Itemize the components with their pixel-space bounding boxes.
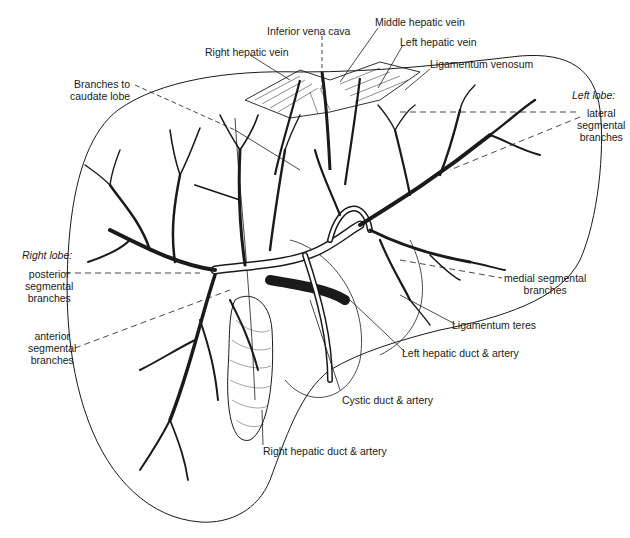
label-right-posterior-segmental-branches: posterior segmental branches [25,268,73,304]
label-line: branches [28,354,76,366]
label-left-hepatic-vein: Left hepatic vein [400,36,476,48]
leader-lines [65,28,580,445]
label-right-hepatic-duct-artery: Right hepatic duct & artery [263,445,387,457]
label-cystic-duct-artery: Cystic duct & artery [342,394,433,406]
label-line: segmental [25,280,73,292]
label-line: branches [25,292,73,304]
label-line: branches [504,284,586,296]
label-line: segmental [577,119,625,131]
label-right-lobe-heading: Right lobe: [22,249,72,261]
portal-trunk [215,209,370,380]
quadrate-lobe-line [380,240,422,355]
hepatic-veins [245,62,420,185]
label-line: posterior [25,268,73,280]
label-left-lateral-segmental-branches: lateral segmental branches [577,107,625,143]
label-medial-segmental-branches: medial segmental branches [504,272,586,296]
label-left-hepatic-duct-artery: Left hepatic duct & artery [402,347,519,359]
label-right-anterior-segmental-branches: anterior segmental branches [28,330,76,366]
label-line: caudate lobe [70,90,130,102]
label-line: Branches to [70,78,130,90]
label-ligamentum-venosum: Ligamentum venosum [430,58,533,70]
label-line: lateral [577,107,625,119]
label-inferior-vena-cava: Inferior vena cava [267,25,350,37]
label-line: medial segmental [504,272,586,284]
label-line: segmental [28,342,76,354]
label-line: anterior [28,330,76,342]
label-line: branches [577,131,625,143]
label-right-hepatic-vein: Right hepatic vein [205,46,288,58]
label-left-lobe-heading: Left lobe: [572,89,615,101]
label-branches-to-caudate-lobe: Branches to caudate lobe [70,78,130,102]
label-middle-hepatic-vein: Middle hepatic vein [375,16,465,28]
label-ligamentum-teres: Ligamentum teres [452,319,536,331]
